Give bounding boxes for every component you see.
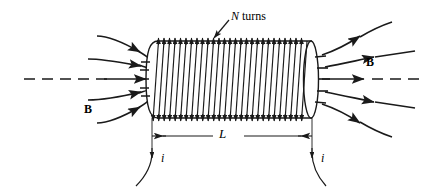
- n-turns-word: turns: [239, 9, 266, 23]
- n-turns-leader: [214, 20, 229, 38]
- solenoid-windings: [153, 41, 307, 118]
- field-line-right-4: [325, 92, 374, 102]
- n-turns-label: N turns: [231, 10, 266, 22]
- figure-canvas: N turns L B B i i: [0, 0, 447, 196]
- solenoid-diagram: [0, 0, 447, 196]
- length-label: L: [219, 127, 226, 140]
- dimension-extension-lines: [152, 118, 312, 152]
- field-line-right-5: [322, 104, 360, 123]
- field-line-left-5: [97, 107, 140, 123]
- field-lines-right: [322, 36, 374, 123]
- field-line-left-1: [97, 36, 140, 52]
- field-lines-right-tails: [360, 22, 415, 137]
- field-line-left-2: [88, 59, 141, 66]
- current-label-left: i: [161, 152, 164, 164]
- n-turns-symbol: N: [231, 9, 239, 23]
- field-line-right-1: [322, 36, 360, 55]
- field-label-right: B: [366, 56, 374, 68]
- winding-ticks-top: [159, 38, 302, 45]
- field-label-left: B: [84, 103, 92, 115]
- field-line-left-4: [88, 92, 141, 100]
- current-label-right: i: [321, 152, 324, 164]
- lead-wire-left: [136, 148, 152, 186]
